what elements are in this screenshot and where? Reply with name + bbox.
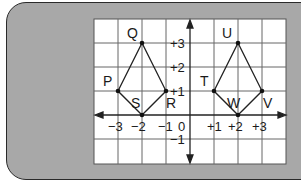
point-label-t: T (200, 73, 209, 89)
y-tick-label: +2 (170, 60, 185, 75)
coordinate-grid: P Q R S T U V W −3 −2 −1 0 +1 +2 +3 +3 +… (0, 0, 301, 184)
point-label-s: S (131, 95, 140, 111)
y-tick-label: +3 (170, 36, 185, 51)
x-tick-label: +1 (207, 119, 222, 134)
x-tick-label: −3 (108, 119, 123, 134)
point-label-w: W (227, 95, 241, 111)
x-tick-label: −2 (131, 119, 146, 134)
x-tick-label: +3 (252, 119, 267, 134)
point-label-u: U (222, 25, 232, 41)
point-label-v: V (263, 95, 273, 111)
point-label-q: Q (127, 25, 138, 41)
y-tick-label: +1 (170, 84, 185, 99)
y-tick-label: −1 (170, 132, 185, 147)
x-tick-label: +2 (228, 119, 243, 134)
point-label-p: P (103, 73, 112, 89)
